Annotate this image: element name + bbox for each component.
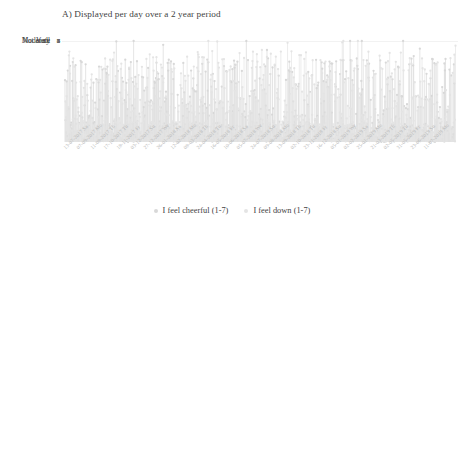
- chart-a-title: A) Displayed per day over a 2 year perio…: [62, 9, 221, 19]
- legend-item-down: I feel down (1-7): [244, 206, 310, 215]
- legend-label-cheerful: I feel cheerful (1-7): [163, 206, 229, 215]
- legend-item-cheerful: I feel cheerful (1-7): [154, 206, 229, 215]
- chart-panel-a: A) Displayed per day over a 2 year perio…: [0, 0, 464, 230]
- chart-a-y-axis: Very765Moderate432Not at all1: [0, 41, 60, 142]
- chart-panel-b: B) Displayed per month over a 2 year per…: [0, 230, 464, 451]
- legend-marker-icon: [154, 209, 158, 213]
- y-tick-1: Not at all1: [22, 37, 60, 45]
- chart-a-legend: I feel cheerful (1-7) I feel down (1-7): [0, 206, 464, 215]
- legend-marker-icon: [244, 209, 248, 213]
- legend-label-down: I feel down (1-7): [253, 206, 310, 215]
